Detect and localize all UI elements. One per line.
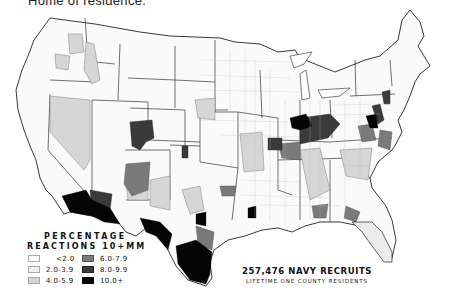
legend-item-10-plus: 10.0+	[82, 276, 123, 285]
legend-swatch	[82, 277, 94, 284]
legend-label: 4.0-5.9	[46, 277, 74, 285]
legend-swatch	[28, 277, 40, 284]
legend-swatch	[82, 255, 94, 262]
legend-label: 6.0-7.9	[100, 255, 128, 263]
legend-subtitle: REACTIONS 10+MM	[27, 242, 146, 251]
legend-swatch	[82, 266, 94, 273]
legend-item-2-4: 2.0-3.9	[28, 265, 74, 274]
legend-label: 10.0+	[100, 277, 123, 285]
caption-subtitle: LIFETIME ONE COUNTY RESIDENTS	[232, 278, 382, 284]
map-caption: 257,476 NAVY RECRUITS LIFETIME ONE COUNT…	[232, 266, 382, 284]
legend-title: PERCENTAGE	[44, 232, 127, 241]
legend-item-8-10: 8.0-9.9	[82, 265, 128, 274]
legend-item-4-6: 4.0-5.9	[28, 276, 74, 285]
legend-item-6-8: 6.0-7.9	[82, 254, 128, 263]
legend-swatch	[28, 266, 40, 273]
legend-item-lt2: <2.0	[28, 254, 75, 263]
legend-label: 8.0-9.9	[100, 266, 128, 274]
legend-label: 2.0-3.9	[46, 266, 74, 274]
legend-swatch	[28, 255, 40, 262]
caption-title: 257,476 NAVY RECRUITS	[232, 266, 382, 276]
legend-label: <2.0	[56, 255, 75, 263]
